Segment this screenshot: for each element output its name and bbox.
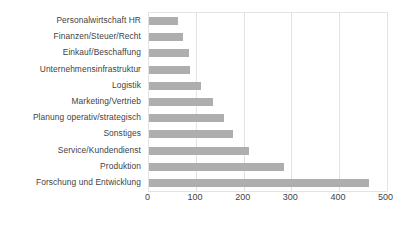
bar (149, 66, 191, 74)
category-axis: Personalwirtschaft HRFinanzen/Steuer/Rec… (0, 12, 146, 190)
category-label: Einkauf/Beschaffung (0, 44, 146, 60)
bar-row (149, 78, 387, 94)
bar-series (149, 13, 387, 191)
value-tick-label: 0 (145, 192, 150, 202)
bar (149, 114, 224, 122)
bar (149, 179, 369, 187)
bar-row (149, 126, 387, 142)
bar (149, 163, 285, 171)
bar (149, 130, 234, 138)
gridline (387, 13, 388, 191)
bar-row (149, 13, 387, 29)
plot-area (148, 12, 388, 192)
bar (149, 98, 213, 106)
value-axis: 0100200300400500 (148, 192, 386, 208)
category-label: Sonstiges (0, 125, 146, 141)
bar (149, 49, 190, 57)
category-label: Logistik (0, 77, 146, 93)
category-label: Unternehmensinfrastruktur (0, 61, 146, 77)
value-tick-label: 300 (283, 192, 298, 202)
category-label: Service/Kundendienst (0, 142, 146, 158)
value-tick-label: 100 (188, 192, 203, 202)
category-label: Marketing/Vertrieb (0, 93, 146, 109)
bar-row (149, 143, 387, 159)
category-label: Planung operativ/strategisch (0, 109, 146, 125)
bar-row (149, 175, 387, 191)
bar-chart: Personalwirtschaft HRFinanzen/Steuer/Rec… (0, 0, 411, 231)
value-tick-label: 200 (235, 192, 250, 202)
category-label: Produktion (0, 158, 146, 174)
bar (149, 33, 184, 41)
value-tick-label: 500 (378, 192, 393, 202)
bar (149, 17, 179, 25)
value-tick-label: 400 (330, 192, 345, 202)
bar (149, 82, 201, 90)
category-label: Personalwirtschaft HR (0, 12, 146, 28)
bar (149, 147, 250, 155)
category-label: Forschung und Entwicklung (0, 174, 146, 190)
bar-row (149, 45, 387, 61)
category-label: Finanzen/Steuer/Recht (0, 28, 146, 44)
bar-row (149, 29, 387, 45)
bar-row (149, 62, 387, 78)
bar-row (149, 110, 387, 126)
bar-row (149, 159, 387, 175)
bar-row (149, 94, 387, 110)
